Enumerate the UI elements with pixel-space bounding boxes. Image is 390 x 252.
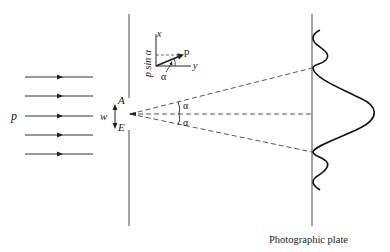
inset-p-label: p (184, 45, 190, 57)
slit-width-label: w (100, 110, 108, 122)
inset-angle-pointer (166, 64, 171, 72)
ray-lower (130, 114, 312, 152)
arrow-up-icon (113, 104, 118, 110)
inset-x-label: x (156, 28, 162, 39)
angle-arc-lower (178, 114, 180, 125)
photographic-plate-label: Photographic plate (269, 234, 348, 245)
ray-upper (130, 68, 312, 114)
slit-edge-e-label: E (117, 121, 125, 133)
incident-momentum-label: p (10, 109, 17, 123)
inset-component-label: p sin α (142, 49, 153, 78)
angle-label-upper: α (183, 100, 189, 111)
inset-momentum-arrowhead-icon (177, 54, 184, 60)
intensity-curve (313, 30, 374, 190)
inset-momentum-vector (156, 56, 180, 66)
arrowhead-icon (57, 152, 63, 157)
inset-alpha-label: α (161, 71, 167, 82)
angle-label-lower: α (183, 117, 189, 128)
angle-arcs (178, 102, 180, 125)
angle-arc-upper (178, 102, 180, 114)
slit-width-arrow (113, 104, 118, 129)
arrow-down-icon (113, 123, 118, 129)
arrowhead-icon (57, 75, 63, 80)
slit-edge-a-label: A (117, 94, 125, 106)
inset-angle-arc (174, 59, 175, 66)
apex-arrowhead-icon (129, 112, 136, 116)
arrowhead-icon (57, 94, 63, 99)
incident-beam-arrows (25, 75, 93, 157)
diffraction-diagram: p A E w α α x y p α p sin α (0, 0, 390, 252)
arrowhead-icon (57, 114, 63, 119)
inset-y-label: y (192, 60, 198, 71)
diffraction-rays (130, 68, 312, 152)
arrowhead-icon (57, 133, 63, 138)
inset-angle-pointer-arrowhead-icon (170, 61, 173, 66)
